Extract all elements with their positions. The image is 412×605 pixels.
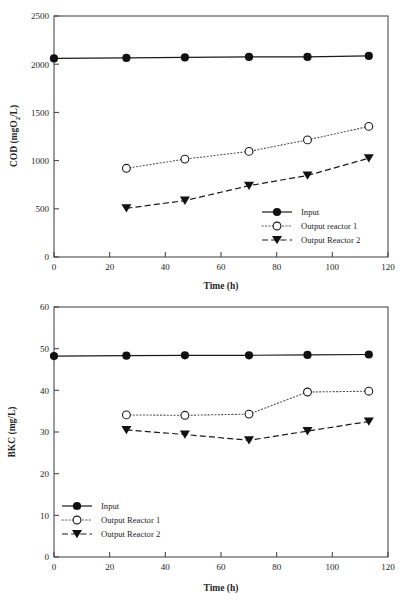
bkc-chart-svg: 0 10 20 30 40 50 60 0 20 40 60 [0, 295, 412, 605]
cod-series-input [50, 52, 373, 63]
bkc-xtick-20: 20 [105, 562, 115, 572]
cod-xtick-0: 0 [52, 262, 57, 272]
cod-xtick-60: 60 [217, 262, 227, 272]
cod-legend-item-input: Input [262, 207, 320, 217]
filled-circle-icon [273, 208, 281, 216]
bkc-xtick-40: 40 [161, 562, 171, 572]
cod-xtick-120: 120 [381, 262, 395, 272]
open-circle-icon [73, 516, 81, 524]
cod-y-axis: 0 500 1000 1500 2000 2500 [31, 11, 59, 262]
bkc-x-axis-title: Time (h) [204, 583, 239, 594]
bkc-chart: 0 10 20 30 40 50 60 0 20 40 60 [0, 295, 412, 605]
bkc-xtick-80: 80 [272, 562, 282, 572]
bkc-y-axis-title: BKC (mg/L) [7, 407, 18, 458]
svg-text:COD (mgO2/L): COD (mgO2/L) [9, 105, 21, 167]
cod-ytick-1500: 1500 [31, 108, 50, 118]
bkc-legend-item-output-reactor-1: Output Reactor 1 [62, 515, 160, 525]
cod-ytick-1000: 1000 [31, 156, 50, 166]
figure-container: 0 500 1000 1500 2000 2500 0 20 40 60 [0, 0, 412, 605]
cod-chart: 0 500 1000 1500 2000 2500 0 20 40 60 [0, 0, 412, 300]
cod-y-axis-title: COD (mgO2/L) [9, 105, 21, 167]
filled-circle-icon [73, 502, 81, 510]
cod-ytick-2500: 2500 [31, 11, 50, 21]
bkc-ytick-60: 60 [40, 302, 50, 312]
cod-y-axis-title-post: /L) [9, 105, 20, 118]
bkc-ytick-20: 20 [40, 469, 50, 479]
cod-ytick-500: 500 [36, 204, 50, 214]
bkc-y-axis: 0 10 20 30 40 50 60 [40, 302, 59, 562]
bkc-series-output-reactor-2 [121, 418, 373, 445]
bkc-xtick-0: 0 [52, 562, 57, 572]
cod-y-axis-title-pre: COD (mgO [9, 120, 20, 167]
cod-series-output-reactor-2 [121, 154, 373, 212]
cod-series-output-reactor-1 [123, 123, 373, 173]
bkc-ytick-30: 30 [40, 427, 50, 437]
bkc-series-input [50, 350, 373, 360]
bkc-ytick-40: 40 [40, 386, 50, 396]
cod-x-axis-title: Time (h) [204, 281, 239, 292]
bkc-xtick-60: 60 [217, 562, 227, 572]
bkc-x-axis: 0 20 40 60 80 100 120 [52, 552, 396, 572]
cod-xtick-20: 20 [105, 262, 115, 272]
bkc-xtick-120: 120 [381, 562, 395, 572]
cod-legend-label-output-reactor-1: Output reactor 1 [301, 221, 357, 231]
cod-xtick-100: 100 [326, 262, 340, 272]
cod-x-axis: 0 20 40 60 80 100 120 [52, 252, 396, 272]
cod-legend-label-input: Input [301, 207, 320, 217]
cod-legend: Input Output reactor 1 Output Reactor 2 [262, 207, 360, 245]
cod-legend-item-output-reactor-2: Output Reactor 2 [262, 235, 360, 245]
bkc-legend-label-input: Input [101, 501, 120, 511]
bkc-series-output-reactor-1 [123, 387, 373, 419]
cod-ytick-0: 0 [45, 252, 50, 262]
bkc-legend-label-output-reactor-1: Output Reactor 1 [101, 515, 160, 525]
bkc-ytick-0: 0 [45, 552, 50, 562]
bkc-legend-item-output-reactor-2: Output Reactor 2 [62, 529, 160, 539]
open-circle-icon [273, 222, 281, 230]
cod-xtick-40: 40 [161, 262, 171, 272]
bkc-legend: Input Output Reactor 1 Output Reactor 2 [62, 501, 160, 539]
cod-chart-svg: 0 500 1000 1500 2000 2500 0 20 40 60 [0, 0, 412, 300]
bkc-ytick-50: 50 [40, 344, 50, 354]
cod-legend-label-output-reactor-2: Output Reactor 2 [301, 235, 360, 245]
cod-legend-item-output-reactor-1: Output reactor 1 [262, 221, 357, 231]
bkc-ytick-10: 10 [40, 511, 50, 521]
bkc-legend-item-input: Input [62, 501, 120, 511]
bkc-y-axis-title-text: BKC (mg/L) [7, 407, 18, 458]
cod-ytick-2000: 2000 [31, 60, 50, 70]
cod-xtick-80: 80 [272, 262, 282, 272]
bkc-legend-label-output-reactor-2: Output Reactor 2 [101, 529, 160, 539]
bkc-xtick-100: 100 [326, 562, 340, 572]
